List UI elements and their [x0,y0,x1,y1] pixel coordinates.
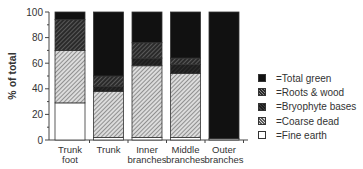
bar-inner-branches [132,12,162,140]
legend-swatch-icon [258,103,266,111]
legend-swatch-icon [258,88,266,96]
segment-bryophyte-bases [94,86,124,91]
x-category-label: foot [62,154,78,165]
bars [55,12,239,140]
segment-roots-wood [171,58,201,64]
legend-label: =Total green [276,73,331,84]
legend-swatch-icon [258,74,266,82]
segment-total-green [55,12,85,20]
legend-swatch-icon [258,131,266,139]
x-category-label: branches [204,154,243,165]
y-tick-label: 60 [32,58,44,69]
segment-bryophyte-bases [132,58,162,66]
legend-item-total-green: =Total green [258,71,356,85]
segment-total-green [171,12,201,58]
segment-coarse-dead [132,66,162,138]
legend-label: =Fine earth [276,130,327,141]
legend: =Total green=Roots & wood=Bryophyte base… [258,71,356,142]
legend-label: =Coarse dead [276,116,339,127]
segment-roots-wood [55,20,85,51]
bar-trunk [94,12,124,140]
legend-swatch-icon [258,117,266,125]
bar-middle-branches [171,12,201,140]
y-tick-label: 40 [32,83,44,94]
legend-item-coarse-dead: =Coarse dead [258,114,356,128]
x-axis: TrunkfootTrunkInnerbranchesMiddlebranche… [49,140,248,165]
legend-item-roots-wood: =Roots & wood [258,85,356,99]
segment-total-green [132,12,162,43]
x-category-label: branches [166,154,205,165]
segment-fine-earth [55,103,85,140]
segment-roots-wood [132,43,162,58]
segment-coarse-dead [55,50,85,102]
y-tick-label: 100 [26,7,43,18]
segment-bryophyte-bases [171,64,201,73]
x-category-label: branches [127,154,166,165]
segment-total-green [94,12,124,76]
y-tick-label: 0 [37,135,43,146]
bar-outer-branches [209,12,239,140]
y-tick-label: 20 [32,109,44,120]
y-axis-title: % of total [6,52,18,99]
legend-label: =Bryophyte bases [276,101,356,112]
y-axis: 020406080100 [26,7,49,146]
x-category-label: Trunk [97,144,121,155]
segment-coarse-dead [171,73,201,137]
legend-label: =Roots & wood [276,87,344,98]
bar-trunk-foot [55,12,85,140]
segment-roots-wood [94,76,124,86]
segment-total-green [209,12,239,139]
segment-coarse-dead [94,91,124,137]
y-tick-label: 80 [32,32,44,43]
legend-item-fine-earth: =Fine earth [258,128,356,142]
legend-item-bryophyte-bases: =Bryophyte bases [258,100,356,114]
